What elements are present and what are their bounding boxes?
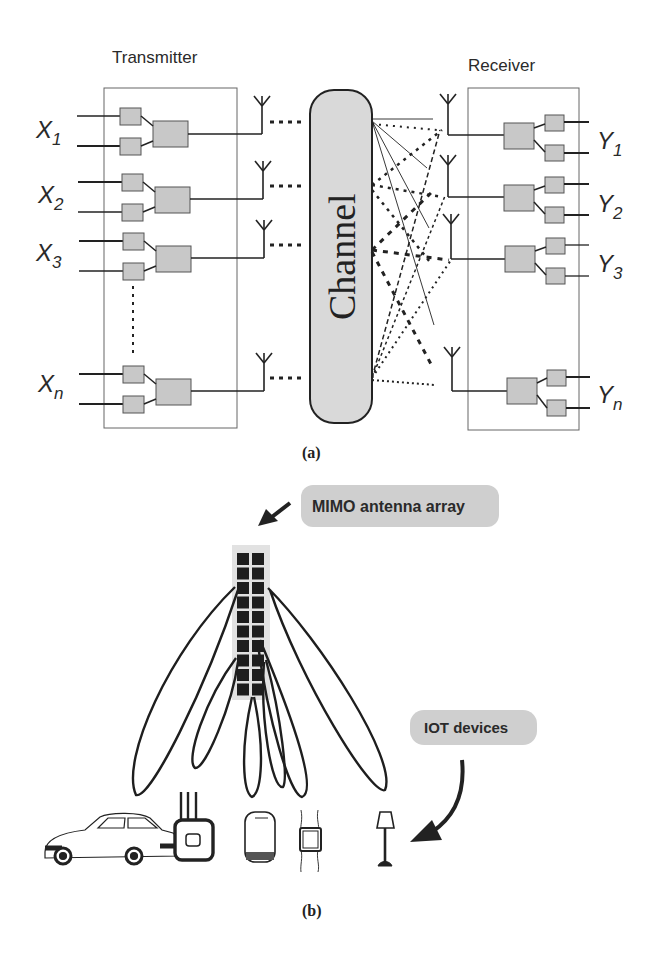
smartwatch-icon [300, 810, 321, 872]
rx-chain-1 [440, 94, 589, 161]
tx-chain-n [79, 353, 272, 413]
output-y3: Y3 [597, 250, 623, 283]
array-element [237, 568, 249, 580]
array-element [237, 582, 249, 594]
array-element [252, 553, 264, 565]
input-labels: X1 X2 X3 Xn [35, 116, 64, 403]
receiver-label: Receiver [468, 56, 535, 75]
tx-chain-2 [78, 161, 271, 221]
output-labels: Y1 Y2 Y3 Yn [597, 127, 623, 414]
output-y2: Y2 [597, 190, 623, 223]
car-icon [45, 813, 180, 864]
array-element [237, 684, 249, 696]
input-xn: Xn [37, 370, 63, 403]
channel-label: Channel [321, 193, 363, 320]
caption-a: (a) [302, 444, 321, 462]
array-element [237, 597, 249, 609]
router-icon [175, 792, 213, 860]
rx-chain-n [444, 347, 590, 416]
mimo-label: MIMO antenna array [312, 498, 465, 515]
array-element [237, 640, 249, 652]
figure-b: MIMO antenna array IOT devices [45, 485, 537, 920]
figure-a: Transmitter Receiver [35, 48, 623, 462]
tx-channel-links [270, 122, 305, 378]
input-x1: X1 [35, 116, 61, 149]
array-element [252, 582, 264, 594]
array-element [252, 611, 264, 623]
array-element [237, 626, 249, 638]
iot-label: IOT devices [424, 719, 508, 736]
arrow-to-lamp-icon [410, 760, 463, 842]
array-element [237, 553, 249, 565]
rx-chain-2 [440, 155, 589, 223]
smartphone-icon [245, 812, 275, 862]
mimo-figure: Transmitter Receiver [0, 0, 655, 963]
array-element [252, 626, 264, 638]
input-x2: X2 [37, 181, 64, 214]
output-y1: Y1 [597, 127, 622, 160]
array-element [237, 669, 249, 681]
channel-paths [372, 119, 451, 385]
transmitter-label: Transmitter [112, 48, 198, 67]
rx-chain-3 [443, 214, 589, 284]
tx-chain-1 [77, 96, 270, 155]
tx-chain-3 [79, 220, 272, 280]
array-element [252, 655, 264, 667]
array-element [237, 611, 249, 623]
caption-b: (b) [302, 902, 322, 920]
input-x3: X3 [35, 239, 62, 272]
array-element [252, 568, 264, 580]
floor-lamp-icon [377, 812, 394, 866]
arrow-to-array-icon [258, 503, 290, 526]
array-element [252, 597, 264, 609]
output-yn: Yn [597, 381, 622, 414]
